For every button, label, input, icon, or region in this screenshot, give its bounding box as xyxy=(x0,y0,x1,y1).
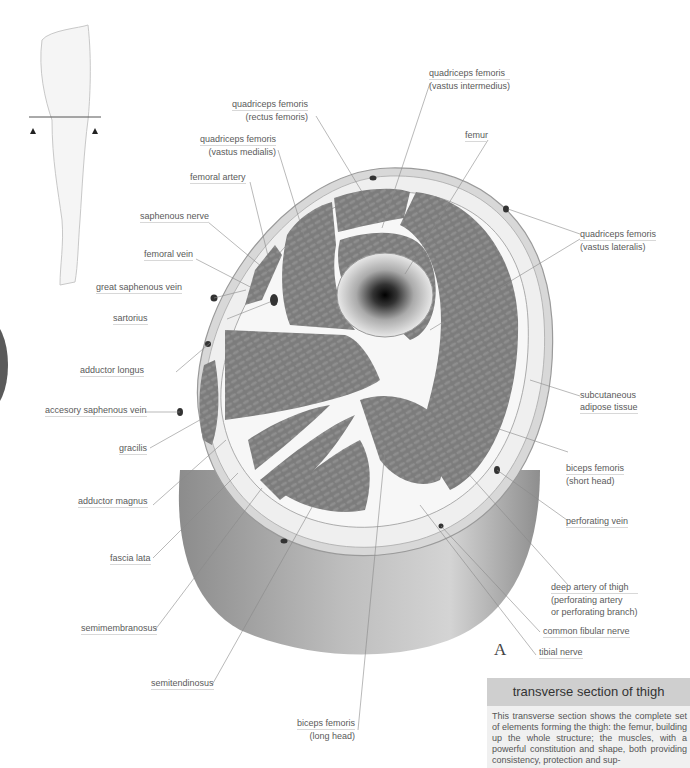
label-semitendinosus: semitendinosus xyxy=(151,677,214,690)
caption-box: transverse section of thigh This transve… xyxy=(487,678,690,768)
label-accesory-saphenous-vein: accesory saphenous vein xyxy=(45,404,147,417)
label-vastus-intermedius: quadriceps femoris (vastus intermedius) xyxy=(429,67,510,92)
label-great-saphenous-vein: great saphenous vein xyxy=(96,281,182,294)
label-biceps-long-head: biceps femoris (long head) xyxy=(297,717,355,742)
label-gracilis: gracilis xyxy=(119,442,147,455)
label-deep-artery-of-thigh: deep artery of thigh (perforating artery… xyxy=(551,581,638,618)
label-tibial-nerve: tibial nerve xyxy=(539,646,583,659)
femur-bone xyxy=(337,253,433,337)
caption-title: transverse section of thigh xyxy=(487,678,690,706)
label-rectus-femoris: quadriceps femoris (rectus femoris) xyxy=(232,98,308,123)
label-femoral-vein: femoral vein xyxy=(144,248,193,261)
thigh-illustration xyxy=(0,0,690,768)
label-adductor-magnus: adductor magnus xyxy=(78,495,148,508)
label-saphenous-nerve: saphenous nerve xyxy=(140,210,209,223)
label-subcutaneous-adipose: subcutaneous adipose tissue xyxy=(580,389,638,414)
label-vastus-lateralis: quadriceps femoris (vastus lateralis) xyxy=(580,228,656,253)
label-perforating-vein: perforating vein xyxy=(566,515,628,528)
label-sartorius: sartorius xyxy=(113,312,148,325)
label-common-fibular-nerve: common fibular nerve xyxy=(543,625,630,638)
label-femur: femur xyxy=(465,129,488,142)
label-semimembranosus: semimembranosus xyxy=(81,622,157,635)
label-fascia-lata: fascia lata xyxy=(110,552,151,565)
leg-thumbnail xyxy=(29,25,101,285)
caption-body: This transverse section shows the comple… xyxy=(487,706,690,766)
figure-letter: A xyxy=(494,640,506,660)
label-vastus-medialis: quadriceps femoris (vastus medialis) xyxy=(200,133,276,158)
label-femoral-artery: femoral artery xyxy=(190,171,246,184)
label-biceps-short-head: biceps femoris (short head) xyxy=(566,462,624,487)
label-adductor-longus: adductor longus xyxy=(80,364,144,377)
